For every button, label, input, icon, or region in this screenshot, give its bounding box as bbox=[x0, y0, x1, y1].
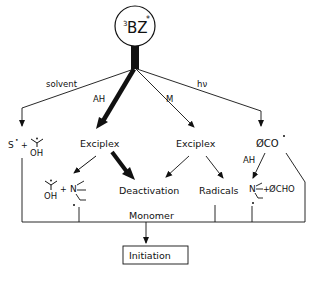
ketyl-amine-products: OH + N bbox=[44, 180, 86, 222]
svg-text:+: + bbox=[21, 141, 28, 150]
exciplex-right-to-radicals-arrow bbox=[206, 156, 223, 178]
svg-text:S: S bbox=[8, 140, 14, 150]
monomer-collector: Monomer bbox=[22, 158, 305, 243]
initiation-label: Initiation bbox=[129, 250, 171, 261]
ah-right-label: AH bbox=[243, 155, 255, 165]
triplet-benzophenone-node: 3 BZ * bbox=[115, 6, 155, 46]
svg-text:OH: OH bbox=[30, 148, 43, 158]
initiation-box: Initiation bbox=[123, 246, 188, 264]
deactivation: Deactivation bbox=[119, 185, 179, 196]
exciplex-left-to-deactivation-thick-arrow bbox=[112, 152, 135, 180]
svg-text:OH: OH bbox=[44, 191, 57, 201]
benzoyl-radical: ØCO bbox=[256, 135, 285, 149]
hv-label: hν bbox=[197, 79, 207, 89]
radicals: Radicals bbox=[199, 185, 239, 196]
svg-text:•: • bbox=[15, 136, 19, 143]
solvent-products: S • + OH bbox=[8, 136, 43, 158]
m-label: M bbox=[166, 94, 173, 104]
photoinitiation-diagram: 3 BZ * solvent AH M hν S • + OH Exciplex bbox=[0, 0, 314, 285]
stem-bar bbox=[131, 46, 139, 69]
exciplex-left-to-ketyl-arrow bbox=[74, 156, 96, 173]
amine-aldehyde-products: N + ØCHO bbox=[249, 183, 295, 222]
m-branch: M bbox=[136, 69, 194, 127]
svg-text:+: + bbox=[60, 185, 67, 194]
superscript-star: * bbox=[146, 15, 150, 24]
exciplex-right: Exciplex bbox=[176, 138, 216, 149]
svg-text:N: N bbox=[70, 184, 77, 194]
bz-label: BZ bbox=[127, 19, 148, 37]
hv-branch: hν bbox=[137, 69, 261, 126]
exciplex-left: Exciplex bbox=[80, 138, 120, 149]
exciplex-right-to-deactivation-arrow bbox=[166, 156, 189, 177]
solvent-label: solvent bbox=[46, 79, 78, 89]
ah-label: AH bbox=[93, 94, 105, 104]
svg-text:ØCO: ØCO bbox=[256, 138, 279, 149]
svg-text:N: N bbox=[249, 184, 256, 194]
svg-text:ØCHO: ØCHO bbox=[269, 184, 295, 194]
ah-branch: AH bbox=[93, 69, 134, 129]
monomer-label: Monomer bbox=[129, 210, 174, 221]
